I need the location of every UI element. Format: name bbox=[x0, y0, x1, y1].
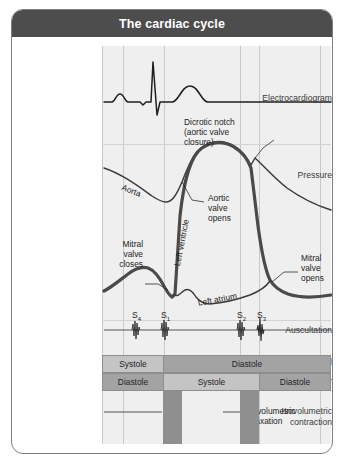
row-label-pressure: Pressure bbox=[246, 170, 332, 181]
heart-sound-label-s1: S1 bbox=[161, 310, 170, 322]
row-label-auscultation: Auscultation bbox=[246, 325, 332, 336]
annotation-dicrotic-notch: Dicrotic notch (aortic valve closure) bbox=[184, 117, 274, 147]
isovolumetric-contraction-bar bbox=[163, 391, 182, 444]
heart-sound-label-s2: S2 bbox=[237, 310, 246, 322]
cardiac-cycle-figure: The cardiac cycle bbox=[0, 0, 344, 466]
ecg-trace bbox=[104, 62, 331, 115]
row-label-ecg: Electrocardiogram bbox=[246, 93, 332, 104]
ventricular-bar-systole: Systole bbox=[163, 373, 260, 391]
atrial-bar-diastole: Diastole bbox=[163, 355, 331, 373]
heart-sound-label-s3: S3 bbox=[257, 310, 266, 322]
leader-mitral-valve-opens bbox=[272, 272, 298, 282]
heart-sound-label-s4: S4 bbox=[132, 310, 141, 322]
isovolumetric-relaxation-bar bbox=[240, 391, 259, 444]
annotation-aortic-valve-opens: Aortic valve opens bbox=[208, 193, 258, 223]
atrial-bar-systole: Systole bbox=[102, 355, 164, 373]
annotation-mitral-valve-opens: Mitral valve opens bbox=[301, 253, 333, 283]
ventricular-bar-diastole-2: Diastole bbox=[259, 373, 331, 391]
annotation-mitral-valve-closes: Mitral valve closes bbox=[87, 239, 143, 269]
figure-card: The cardiac cycle bbox=[11, 9, 333, 454]
ventricular-bar-diastole-1: Diastole bbox=[102, 373, 164, 391]
